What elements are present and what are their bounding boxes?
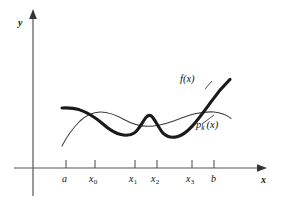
x-axis-ticks (66, 160, 214, 168)
curve-label-p-k: pk(x) (196, 120, 218, 132)
tick-label-x2-sub: 2 (156, 178, 160, 186)
curve-label-p-args: (x) (207, 119, 219, 130)
tick-label-x1-base: x (129, 173, 133, 184)
tick-label-x0: x0 (89, 174, 97, 186)
tick-label-x0-sub: 0 (94, 178, 98, 186)
y-axis-arrowhead (29, 9, 37, 19)
curve-label-f: f(x) (180, 74, 195, 85)
curve-label-f-args: (x) (183, 73, 195, 84)
tick-label-x3-base: x (186, 173, 190, 184)
tick-label-b-base: b (211, 173, 216, 184)
tick-label-b: b (211, 174, 216, 186)
y-axis-label: y (18, 18, 22, 28)
x-axis-label: x (261, 175, 266, 185)
tick-label-x1-sub: 1 (134, 178, 138, 186)
tick-label-x2: x2 (151, 174, 159, 186)
tick-label-x2-base: x (151, 173, 155, 184)
leader-line-f (205, 81, 212, 89)
tick-label-x3: x3 (186, 174, 194, 186)
tick-label-a: a (62, 174, 67, 186)
tick-label-x3-sub: 3 (191, 178, 195, 186)
tick-label-x0-base: x (89, 173, 93, 184)
tick-label-a-base: a (62, 173, 67, 184)
f-label-leader (205, 81, 212, 89)
x-axis (14, 164, 267, 172)
x-axis-arrowhead (257, 164, 267, 172)
diagram-svg (0, 0, 289, 204)
curve-label-p-sub: k (201, 123, 204, 132)
figure-canvas: y x a x0 x1 x2 x3 b f(x) pk(x) (0, 0, 289, 204)
tick-label-x1: x1 (129, 174, 137, 186)
